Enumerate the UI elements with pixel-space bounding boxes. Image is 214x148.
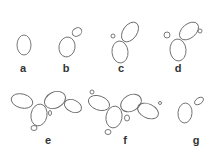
bud-cell — [90, 90, 94, 94]
panel-f: f — [86, 90, 161, 146]
panel-label: a — [20, 62, 27, 74]
mother-cell — [10, 91, 35, 110]
panel-label: e — [45, 134, 51, 146]
panel-label: f — [123, 134, 127, 146]
bud-cell — [49, 111, 52, 116]
budding-cells-figure: abcdefg — [0, 0, 214, 148]
mother-cell — [177, 102, 193, 123]
bud-cell — [71, 26, 84, 38]
panel-d: d — [164, 19, 202, 74]
bud-cell — [198, 29, 202, 33]
bud-cell — [105, 130, 111, 135]
panel-label: g — [193, 134, 200, 146]
panel-b: b — [57, 26, 83, 74]
bud-cell — [125, 115, 130, 121]
bud-cell — [135, 100, 161, 122]
panel-label: d — [175, 62, 182, 74]
panel-g: g — [177, 96, 205, 146]
bud-cell — [164, 32, 170, 38]
bud-cell — [193, 96, 205, 107]
panel-c: c — [111, 19, 142, 74]
bud-cell — [31, 126, 37, 131]
bud-cell — [111, 34, 115, 38]
bud-cell — [104, 105, 124, 129]
panel-a: a — [17, 35, 31, 74]
mother-cell — [57, 36, 76, 58]
panel-label: b — [63, 62, 70, 74]
panel-label: c — [118, 62, 124, 74]
panel-e: e — [10, 88, 84, 146]
mother-cell — [111, 40, 129, 63]
bud-cell — [159, 102, 162, 105]
mother-cell — [169, 38, 187, 61]
mother-cell — [17, 35, 31, 55]
